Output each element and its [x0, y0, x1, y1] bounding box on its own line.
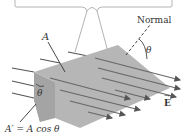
theta-side-label: θ — [37, 88, 43, 98]
callout-neck — [87, 8, 97, 12]
field-label: E — [164, 98, 171, 108]
normal-label: Normal — [137, 15, 171, 25]
flux-diagram: Normal A θ θ A′ = A cos θ → E — [0, 0, 185, 135]
projected-area-pointer — [20, 104, 36, 122]
area-label: A — [41, 31, 49, 42]
theta-top-label: θ — [146, 45, 152, 55]
projected-area-label: A′ = A cos θ — [4, 124, 60, 134]
